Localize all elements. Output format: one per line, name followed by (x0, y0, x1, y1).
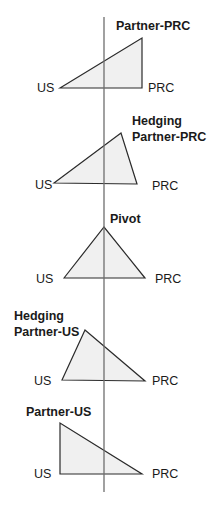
triangle-partner-prc (60, 38, 142, 88)
label-prc: PRC (148, 81, 174, 95)
title-pivot: Pivot (110, 212, 141, 227)
title-hedging-line: Hedging (132, 114, 182, 129)
title-partner-us-line: Partner-US (14, 325, 79, 340)
label-us: US (34, 467, 51, 481)
label-prc: PRC (155, 272, 181, 286)
title-partner-us: Partner-US (26, 405, 91, 420)
label-us: US (35, 178, 52, 192)
label-prc: PRC (152, 467, 178, 481)
title-hedging-line: Hedging (14, 309, 64, 324)
triangle-partner-us (60, 423, 142, 474)
triangle-hedging-partner-prc (54, 133, 137, 184)
title-partner-prc: Partner-PRC (116, 19, 190, 34)
label-prc: PRC (152, 179, 178, 193)
label-us: US (36, 272, 53, 286)
title-partner-prc-line: Partner-PRC (132, 130, 206, 145)
label-us: US (37, 81, 54, 95)
label-us: US (34, 374, 51, 388)
label-prc: PRC (152, 374, 178, 388)
diagram-canvas (0, 0, 216, 515)
